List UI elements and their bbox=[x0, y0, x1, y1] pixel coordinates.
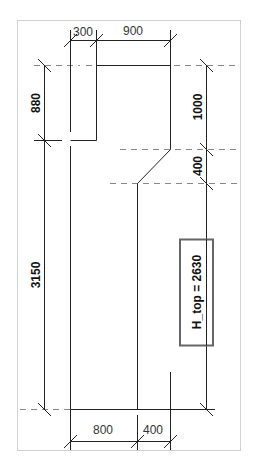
dim-bottom-right: 400 bbox=[143, 423, 163, 437]
dim-right-upper: 1000 bbox=[191, 93, 205, 120]
drawing-frame bbox=[18, 21, 241, 451]
dim-left-upper: 880 bbox=[29, 93, 43, 113]
section-drawing: 300 900 880 3150 1000 400 800 400 H_top … bbox=[0, 0, 255, 468]
dim-bottom-left: 800 bbox=[93, 423, 113, 437]
dim-right-middle: 400 bbox=[191, 156, 205, 176]
dim-top-left: 300 bbox=[73, 25, 93, 39]
dim-top-right: 900 bbox=[123, 24, 143, 38]
parameter-label: H_top = 2630 bbox=[190, 254, 204, 329]
dim-left-lower: 3150 bbox=[29, 261, 43, 288]
